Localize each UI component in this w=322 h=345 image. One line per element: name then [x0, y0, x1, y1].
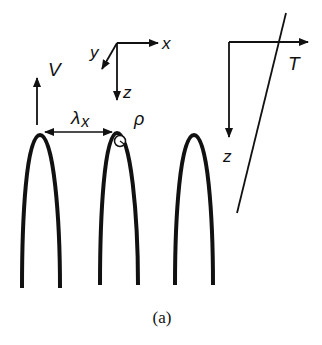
tip-radius-marker [115, 136, 126, 147]
spacing-label: λx [70, 107, 90, 130]
diagram-canvas: V λx ρ x y z T z (a) [0, 0, 322, 345]
axis-x-label: x [161, 34, 171, 53]
temperature-gradient-line [237, 13, 286, 213]
dendrite-3 [175, 135, 213, 285]
spacing-subscript: x [80, 113, 90, 130]
depth-axis-label: z [222, 147, 232, 166]
dendrite-2 [100, 133, 138, 285]
tip-radius-label: ρ [133, 109, 144, 129]
dendrite-1 [22, 135, 60, 288]
lambda-symbol: λ [70, 107, 80, 128]
axis-z-label: z [122, 83, 132, 102]
velocity-label: V [48, 59, 63, 80]
axis-y-label: y [89, 43, 100, 62]
temperature-axis-label: T [288, 53, 301, 74]
figure-caption: (a) [153, 308, 172, 327]
